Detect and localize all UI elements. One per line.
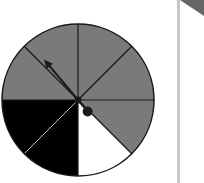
spinner-diagram (0, 0, 204, 183)
panel-separator (177, 0, 180, 183)
spinner-svg (0, 0, 204, 183)
adjacent-panel-corner (180, 0, 204, 16)
